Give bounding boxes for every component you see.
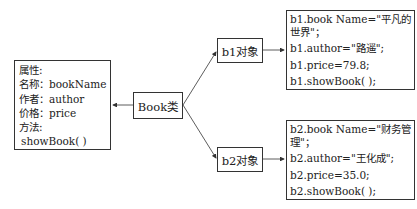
b2-detail-box: b2.book Name="财务管 理"； b2.author="王化成"; b… — [286, 120, 415, 200]
method-heading: 方法: — [19, 120, 110, 134]
attr-name: 名称：bookName — [19, 77, 110, 91]
book-class-label: Book类 — [138, 98, 178, 114]
b1-object-box: b1对象 — [217, 38, 263, 63]
b1-detail-box: b1.book Name="平凡的 世界"； b1.author="路遥"; b… — [286, 10, 415, 90]
b2-author: b2.author="王化成"; — [290, 152, 414, 165]
b2-object-label: b2对象 — [222, 152, 259, 168]
attr-price: 价格：price — [19, 106, 110, 120]
attr-heading: 属性: — [19, 63, 110, 77]
book-class-box: Book类 — [133, 92, 183, 119]
b2-showbook: b2.showBook( ); — [290, 185, 414, 198]
b1-object-label: b1对象 — [222, 43, 259, 59]
b1-price: b1.price=79.8; — [290, 59, 414, 72]
b1-showbook: b1.showBook( ); — [290, 75, 414, 88]
b1-author: b1.author="路遥"; — [290, 42, 414, 55]
b2-name-line2: 理"； — [290, 136, 414, 149]
attributes-box: 属性: 名称：bookName 作者：author 价格：price 方法: s… — [14, 60, 111, 150]
method-showbook: showBook( ) — [19, 134, 110, 148]
attr-author: 作者：author — [19, 92, 110, 106]
b1-name-line1: b1.book Name="平凡的 — [290, 13, 414, 26]
b2-object-box: b2对象 — [217, 147, 263, 172]
b1-name-line2: 世界"； — [290, 26, 414, 39]
b2-name-line1: b2.book Name="财务管 — [290, 123, 414, 136]
b2-price: b2.price=35.0; — [290, 169, 414, 182]
